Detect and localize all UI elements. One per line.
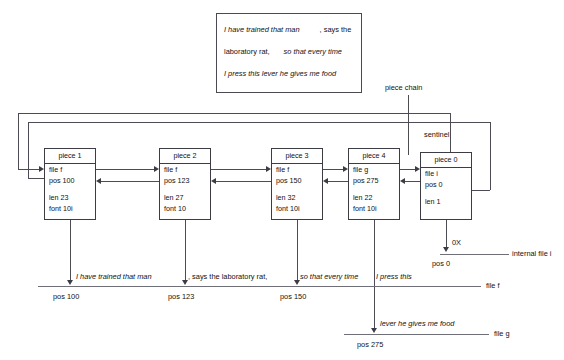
piece-2-title: piece 2 [160,149,210,164]
piece-0-title: piece 0 [421,153,471,168]
file-f-pos-label-1: pos 100 [53,292,79,301]
drop-line-piece-0 [446,220,447,247]
piece-chain-diagram: I have trained that man, says the labora… [0,0,564,360]
sentinel-label: sentinel [424,130,449,139]
inner-ring-return [472,190,490,191]
file-f-segment-3: so that every time [300,272,358,281]
inner-ring-top [28,122,490,123]
file-f-pos-label-2: pos 123 [168,292,194,301]
piece-2-file: file f [164,165,177,174]
forward-link-3-4 [323,169,343,170]
piece-box-3: piece 3 file f pos 150 len 32 font 10i [271,148,323,220]
piece-2-pos: pos 123 [164,176,190,185]
drop-line-piece-1 [70,220,71,280]
piece-1-file: file f [49,165,62,174]
drop-line-piece-4 [374,220,375,328]
forward-link-2-3 [211,169,266,170]
file-g-pos-label: pos 275 [357,340,383,349]
back-link-3-2-arrowhead [211,178,216,184]
forward-link-4-0-arrowhead [415,166,420,172]
piece-0-file: file i [425,169,438,178]
piece-4-font: font 10i [353,204,377,213]
back-link-2-1-arrowhead [96,178,101,184]
piece-4-pos: pos 275 [353,176,379,185]
quote-line-2-roman: laboratory rat, [224,47,270,56]
piece-4-len: len 22 [353,193,373,202]
piece-2-font: font 10 [164,204,186,213]
file-f-segment-4: I press this [376,272,412,281]
forward-link-4-0 [400,169,415,170]
drop-line-piece-1-arrowhead [67,280,73,285]
inner-ring-right [490,122,491,190]
piece-3-pos: pos 150 [276,176,302,185]
back-link-0-4-arrowhead [400,178,405,184]
outer-ring-left [18,113,19,169]
internal-file-line [440,254,509,255]
forward-link-2-3-arrowhead [266,166,271,172]
drop-line-piece-4-arrowhead [371,328,377,333]
piece-box-2: piece 2 file f pos 123 len 27 font 10 [159,148,211,220]
inner-ring-left [28,122,29,178]
piece-1-len: len 23 [49,193,69,202]
piece-box-4: piece 4 file g pos 275 len 22 font 10i [348,148,400,220]
drop-line-piece-2 [185,220,186,280]
file-f-segment-1: I have trained that man [76,272,152,281]
quote-box: I have trained that man, says the labora… [216,13,362,93]
piece-2-len: len 27 [164,193,184,202]
back-link-3-2 [216,181,271,182]
file-f-pos-label-3: pos 150 [280,292,306,301]
quote-line-3-italic: I press this lever he gives me food [224,69,336,78]
drop-line-piece-3 [297,220,298,280]
outer-ring-top [18,113,450,114]
file-g-name-label: file g [494,329,510,338]
quote-line-1-roman: , says the [320,25,352,34]
inner-ring-enter [28,178,44,179]
piece-box-0-sentinel: piece 0 file i pos 0 len 1 [420,152,472,220]
quote-line-1: I have trained that man, says the [224,25,356,34]
forward-link-3-4-arrowhead [343,166,348,172]
back-link-0-4 [405,181,420,182]
file-g-segment: lever he gives me food [380,319,454,328]
piece-3-file: file f [276,165,289,174]
drop-line-piece-0-arrowhead [443,247,449,252]
piece-box-1: piece 1 file f pos 100 len 23 font 10i [44,148,96,220]
piece-1-title: piece 1 [45,149,95,164]
internal-file-marker-label: 0X [452,238,461,247]
piece-3-title: piece 3 [272,149,322,164]
forward-link-1-2-arrowhead [154,166,159,172]
piece-1-pos: pos 100 [49,176,75,185]
piece-3-len: len 32 [276,193,296,202]
quote-line-3: I press this lever he gives me food [224,69,356,78]
file-f-segment-2: , says the laboratory rat, [188,272,267,281]
file-g-line [344,334,489,335]
file-f-line [38,286,481,287]
piece-1-font: font 10i [49,204,73,213]
back-link-4-3 [328,181,348,182]
quote-line-1-italic: I have trained that man [224,25,300,34]
internal-file-name-label: internal file i [512,249,551,258]
quote-line-2: laboratory rat,so that every time [224,47,356,56]
piece-chain-leader-line [408,95,409,155]
piece-4-file: file g [353,165,368,174]
piece-chain-label: piece chain [385,83,422,92]
file-f-name-label: file f [486,281,500,290]
back-link-4-3-arrowhead [323,178,328,184]
piece-3-font: font 10i [276,204,300,213]
internal-file-pos-label: pos 0 [432,259,450,268]
piece-0-len: len 1 [425,197,441,206]
back-link-2-1 [101,181,159,182]
piece-4-title: piece 4 [349,149,399,164]
quote-line-2-italic: so that every time [284,47,342,56]
piece-0-pos: pos 0 [425,180,443,189]
forward-link-1-2 [96,169,154,170]
